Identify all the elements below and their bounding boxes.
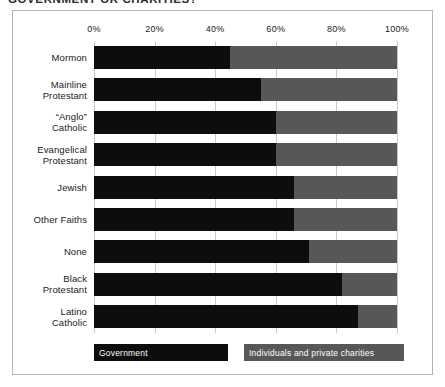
y-axis-category-labels: MormonMainlineProtestant“Anglo”CatholicE… bbox=[13, 41, 87, 333]
category-label-line: Black bbox=[13, 273, 87, 284]
bar-segment-private-charities[interactable] bbox=[294, 176, 397, 199]
category-label-line: None bbox=[13, 246, 87, 257]
category-label-line: Jewish bbox=[13, 182, 87, 193]
bar-segment-government[interactable] bbox=[94, 208, 294, 231]
bar-segment-private-charities[interactable] bbox=[309, 240, 397, 263]
category-label-3: EvangelicalProtestant bbox=[13, 144, 87, 166]
bar-segment-government[interactable] bbox=[94, 305, 358, 328]
category-label-line: Other Faiths bbox=[13, 214, 87, 225]
table-row[interactable] bbox=[94, 208, 397, 231]
bar-segment-private-charities[interactable] bbox=[276, 111, 397, 134]
category-label-line: Catholic bbox=[13, 317, 87, 328]
x-axis-tick-0: 0% bbox=[87, 24, 101, 34]
category-label-line: Protestant bbox=[13, 284, 87, 295]
category-label-line: “Anglo” bbox=[13, 111, 87, 122]
table-row[interactable] bbox=[94, 305, 397, 328]
plot-area bbox=[94, 41, 397, 333]
bar-segment-government[interactable] bbox=[94, 46, 230, 69]
table-row[interactable] bbox=[94, 111, 397, 134]
category-label-line: Protestant bbox=[13, 155, 87, 166]
category-label-2: “Anglo”Catholic bbox=[13, 111, 87, 133]
bar-segment-government[interactable] bbox=[94, 78, 261, 101]
legend-item-private-charities[interactable]: Individuals and private charities bbox=[244, 344, 404, 361]
bar-segment-private-charities[interactable] bbox=[261, 78, 397, 101]
chart-frame: 0%20%40%60%80%100% MormonMainlineProtest… bbox=[12, 10, 433, 375]
x-axis-tick-80: 80% bbox=[327, 24, 346, 34]
chart-legend: Government Individuals and private chari… bbox=[94, 344, 404, 361]
x-axis-tick-labels: 0%20%40%60%80%100% bbox=[94, 24, 399, 38]
category-label-line: Mormon bbox=[13, 52, 87, 63]
bar-segment-private-charities[interactable] bbox=[276, 143, 397, 166]
category-label-7: BlackProtestant bbox=[13, 273, 87, 295]
category-label-line: Catholic bbox=[13, 122, 87, 133]
table-row[interactable] bbox=[94, 143, 397, 166]
category-label-8: LatinoCatholic bbox=[13, 306, 87, 328]
table-row[interactable] bbox=[94, 78, 397, 101]
category-label-4: Jewish bbox=[13, 182, 87, 193]
bar-segment-government[interactable] bbox=[94, 273, 342, 296]
category-label-line: Evangelical bbox=[13, 144, 87, 155]
chart-title: GOVERNMENT OR CHARITIES? bbox=[8, 0, 197, 6]
legend-label-private-charities: Individuals and private charities bbox=[244, 348, 374, 358]
x-axis-tick-20: 20% bbox=[145, 24, 164, 34]
gridline-100 bbox=[397, 41, 398, 333]
bar-segment-government[interactable] bbox=[94, 240, 309, 263]
bar-segment-private-charities[interactable] bbox=[294, 208, 397, 231]
x-axis-tick-40: 40% bbox=[206, 24, 225, 34]
table-row[interactable] bbox=[94, 240, 397, 263]
category-label-1: MainlineProtestant bbox=[13, 79, 87, 101]
bar-segment-government[interactable] bbox=[94, 176, 294, 199]
table-row[interactable] bbox=[94, 273, 397, 296]
x-axis-tick-100: 100% bbox=[385, 24, 409, 34]
bar-segment-private-charities[interactable] bbox=[230, 46, 397, 69]
category-label-line: Protestant bbox=[13, 90, 87, 101]
bars-layer bbox=[94, 41, 397, 333]
legend-label-government: Government bbox=[94, 348, 148, 358]
table-row[interactable] bbox=[94, 176, 397, 199]
bar-segment-private-charities[interactable] bbox=[358, 305, 397, 328]
category-label-line: Latino bbox=[13, 306, 87, 317]
table-row[interactable] bbox=[94, 46, 397, 69]
category-label-6: None bbox=[13, 246, 87, 257]
bar-segment-government[interactable] bbox=[94, 143, 276, 166]
category-label-0: Mormon bbox=[13, 52, 87, 63]
legend-item-government[interactable]: Government bbox=[94, 344, 228, 361]
category-label-line: Mainline bbox=[13, 79, 87, 90]
category-label-5: Other Faiths bbox=[13, 214, 87, 225]
x-axis-tick-60: 60% bbox=[266, 24, 285, 34]
bar-segment-government[interactable] bbox=[94, 111, 276, 134]
bar-segment-private-charities[interactable] bbox=[342, 273, 397, 296]
